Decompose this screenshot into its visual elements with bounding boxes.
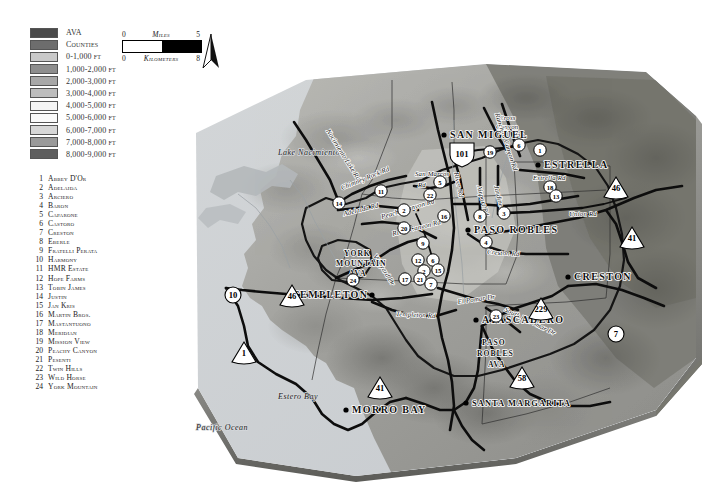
winery-list-item: 2Adelaida (30, 183, 152, 192)
winery-marker-number: 20 (401, 225, 408, 232)
city-label: SAN MIGUEL (450, 129, 528, 140)
winery-list-item: 7Creston (30, 228, 152, 237)
road-label: San Marcos (415, 170, 450, 177)
winery-number: 16 (30, 310, 43, 319)
winery-marker[interactable]: 3 (498, 207, 510, 219)
winery-list-item: 17Mastantuono (30, 319, 152, 328)
map-canvas[interactable]: Lake NacimientoEstero BayPacific OceanNa… (186, 58, 714, 483)
winery-list-item: 12Hope Farms (30, 274, 152, 283)
city-label: CRESTON (574, 271, 632, 282)
winery-marker[interactable]: 12 (412, 254, 424, 266)
legend-swatch (30, 76, 58, 86)
winery-list-item: 6Castoro (30, 219, 152, 228)
winery-number: 4 (30, 201, 43, 210)
city-dot (369, 292, 374, 297)
road-label: Rd (417, 181, 426, 188)
legend-label: 4,000-5,000 ft (66, 101, 116, 110)
winery-list-item: 15Jan Kris (30, 301, 152, 310)
legend-swatch (30, 40, 58, 50)
city-dot (343, 407, 348, 412)
winery-number: 6 (30, 219, 43, 228)
winery-number: 23 (30, 373, 43, 382)
city-label: SANTA MARGARITA (472, 399, 571, 408)
winery-name: Hope Farms (48, 274, 85, 283)
city-label: MORRO BAY (352, 404, 427, 415)
winery-marker[interactable]: 22 (424, 189, 436, 201)
winery-marker[interactable]: 8 (474, 210, 486, 222)
legend-label: 8,000-9,000 ft (66, 150, 116, 159)
legend-item: 4,000-5,000 ft (30, 100, 150, 111)
winery-number: 12 (30, 274, 43, 283)
legend-label: 3,000-4,000 ft (66, 89, 116, 98)
winery-marker[interactable]: 4 (480, 236, 492, 248)
winery-marker-number: 13 (553, 193, 560, 200)
road-label: Union Rd (569, 210, 597, 217)
city-dot (535, 162, 540, 167)
winery-marker[interactable]: 13 (550, 190, 562, 202)
winery-marker[interactable]: 11 (375, 185, 387, 197)
winery-marker[interactable]: 24 (347, 274, 359, 286)
winery-marker-number: 24 (350, 277, 357, 284)
winery-number: 8 (30, 237, 43, 246)
winery-number: 19 (30, 337, 43, 346)
winery-name: Jan Kris (48, 301, 75, 310)
winery-number: 15 (30, 301, 43, 310)
winery-list-item: 1Abbey D'Or (30, 174, 152, 183)
winery-marker[interactable]: 17 (399, 273, 411, 285)
scale-bar-graphic (122, 40, 202, 53)
winery-name: Pesenti (48, 355, 71, 364)
winery-name: Mission View (48, 337, 90, 346)
winery-name: Wild Horse (48, 373, 86, 382)
winery-marker-number: 1 (538, 147, 541, 154)
highway-shield: 10 (225, 287, 241, 303)
winery-number: 10 (30, 255, 43, 264)
winery-marker[interactable]: 1 (534, 144, 546, 156)
city-dot (465, 227, 470, 232)
winery-marker[interactable]: 19 (484, 146, 496, 158)
winery-marker[interactable]: 15 (432, 264, 444, 276)
winery-marker[interactable]: 16 (438, 210, 450, 222)
winery-marker-number: 15 (435, 267, 442, 274)
highway-number: 58 (518, 373, 527, 383)
winery-marker-number: 14 (336, 200, 343, 207)
winery-list-item: 9Fratelli Perata (30, 246, 152, 255)
legend-swatch (30, 28, 58, 38)
legend-item: 8,000-9,000 ft (30, 149, 150, 160)
water-label: Pacific Ocean (195, 423, 248, 432)
water-label: Estero Bay (277, 392, 318, 401)
winery-marker[interactable]: 5 (434, 176, 446, 188)
legend-label: 7,000-8,000 ft (66, 138, 116, 147)
winery-marker-number: 17 (402, 276, 409, 283)
winery-name: Adelaida (48, 183, 77, 192)
winery-marker[interactable]: 23 (490, 310, 502, 322)
highway-number: 1 (242, 348, 246, 358)
winery-number: 13 (30, 283, 43, 292)
city-label: ESTRELLA (544, 159, 609, 170)
winery-marker[interactable]: 20 (398, 222, 410, 234)
highway-number: 229 (535, 304, 548, 314)
winery-list-item: 4Baron (30, 201, 152, 210)
legend-swatch (30, 113, 58, 123)
winery-marker[interactable]: 7 (425, 278, 437, 290)
scale-miles-label: Miles (152, 30, 170, 39)
winery-marker-number: 23 (493, 313, 500, 320)
winery-name: Abbey D'Or (48, 174, 86, 183)
winery-list-item: 20Peachy Canyon (30, 346, 152, 355)
scale-miles-min: 0 (122, 30, 126, 39)
winery-list-item: 24York Mountain (30, 382, 152, 391)
ava-label: ROBLES (477, 349, 514, 358)
winery-number: 3 (30, 192, 43, 201)
winery-marker[interactable]: 9 (417, 237, 429, 249)
winery-list-item: 22Twin Hills (30, 364, 152, 373)
legend-swatch (30, 125, 58, 135)
winery-list-item: 10Harmony (30, 255, 152, 264)
winery-marker-number: 16 (441, 213, 448, 220)
winery-marker[interactable]: 14 (333, 197, 345, 209)
winery-marker[interactable]: 6 (513, 139, 525, 151)
legend-swatch (30, 149, 58, 159)
winery-name: Eberle (48, 237, 70, 246)
city-dot (463, 400, 468, 405)
legend-swatch (30, 101, 58, 111)
winery-list-item: 19Mission View (30, 337, 152, 346)
winery-marker[interactable]: 2 (398, 204, 410, 216)
